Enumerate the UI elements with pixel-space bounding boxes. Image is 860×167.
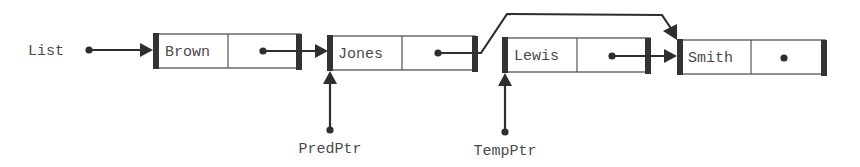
- node-left-bar: [153, 33, 159, 69]
- tempptr-pointer: TempPtr: [473, 73, 536, 160]
- node-left-bar: [327, 35, 333, 71]
- tempptr-label: TempPtr: [473, 143, 536, 160]
- arrowhead-icon: [498, 73, 512, 86]
- node-left-bar: [677, 39, 683, 75]
- arrowhead-icon: [323, 71, 337, 84]
- node-right-bar: [821, 40, 827, 76]
- linked-list-diagram: List Brown Jones Lewis: [0, 0, 860, 167]
- predptr-label: PredPtr: [298, 141, 361, 158]
- node-smith: Smith: [677, 39, 827, 76]
- node-value: Brown: [165, 44, 210, 61]
- node-value: Smith: [688, 50, 733, 67]
- list-label: List: [28, 43, 64, 60]
- node-value: Jones: [338, 46, 383, 63]
- null-pointer-dot-icon: [780, 54, 787, 61]
- arrowhead-icon: [140, 43, 153, 57]
- arrowhead-icon: [664, 49, 677, 63]
- node-value: Lewis: [514, 48, 559, 65]
- predptr-pointer: PredPtr: [298, 71, 361, 158]
- node-brown: Brown: [153, 33, 328, 70]
- arrowhead-icon: [315, 44, 328, 58]
- node-lewis: Lewis: [502, 37, 677, 74]
- node-left-bar: [502, 37, 508, 73]
- list-head-pointer: List: [28, 43, 153, 60]
